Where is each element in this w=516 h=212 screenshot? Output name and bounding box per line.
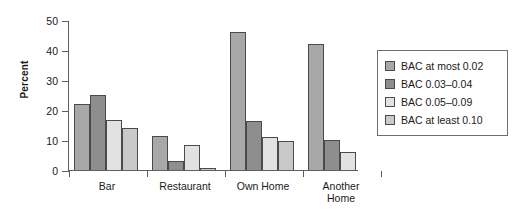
y-axis-tick-label: 50: [16, 16, 58, 27]
x-axis-category-label: Bar: [68, 180, 146, 192]
bar: [340, 152, 356, 171]
legend-item-label: BAC 0.05–0.09: [401, 96, 472, 108]
x-axis-tick: [225, 171, 226, 177]
bar-chart-figure: Percent 50403020100 BarRestaurantOwn Hom…: [0, 0, 516, 212]
bar: [308, 44, 324, 171]
bar: [230, 32, 246, 171]
bar-group: [74, 21, 138, 171]
bar-group: [152, 21, 216, 171]
legend-item[interactable]: BAC at most 0.02: [385, 57, 501, 75]
legend-swatch-icon: [385, 115, 395, 125]
legend-item[interactable]: BAC 0.03–0.04: [385, 75, 501, 93]
bar: [324, 140, 340, 171]
bar: [74, 104, 90, 171]
bar: [152, 136, 168, 171]
x-axis-category-label: Own Home: [224, 180, 302, 192]
legend-item[interactable]: BAC 0.05–0.09: [385, 93, 501, 111]
x-axis-tick: [147, 171, 148, 177]
y-axis-tick-label: 40: [16, 46, 58, 57]
plot-area: [68, 21, 358, 171]
bar: [262, 137, 278, 172]
y-axis-tick-label: 10: [16, 136, 58, 147]
bar-group: [230, 21, 294, 171]
bar: [278, 141, 294, 171]
legend-item-label: BAC at least 0.10: [401, 114, 483, 126]
legend-swatch-icon: [385, 79, 395, 89]
y-axis-tick-label: 30: [16, 76, 58, 87]
x-axis-category-label: Restaurant: [146, 180, 224, 192]
y-axis-tick-label: 20: [16, 106, 58, 117]
legend-item-label: BAC at most 0.02: [401, 60, 483, 72]
bar-group: [308, 21, 372, 171]
x-axis-line: [68, 170, 358, 171]
chart-legend: BAC at most 0.02BAC 0.03–0.04BAC 0.05–0.…: [377, 50, 508, 136]
x-axis-tick: [69, 171, 70, 177]
y-axis-tick-label: 0: [16, 166, 58, 177]
legend-swatch-icon: [385, 97, 395, 107]
x-axis-tick: [303, 171, 304, 177]
legend-swatch-icon: [385, 61, 395, 71]
bar: [184, 145, 200, 171]
bar: [90, 95, 106, 172]
legend-item-label: BAC 0.03–0.04: [401, 78, 472, 90]
x-axis-tick: [381, 171, 382, 177]
bar: [122, 128, 138, 171]
bar: [106, 120, 122, 171]
legend-item[interactable]: BAC at least 0.10: [385, 111, 501, 129]
bar: [246, 121, 262, 171]
x-axis-category-label: Another Home: [302, 180, 380, 204]
